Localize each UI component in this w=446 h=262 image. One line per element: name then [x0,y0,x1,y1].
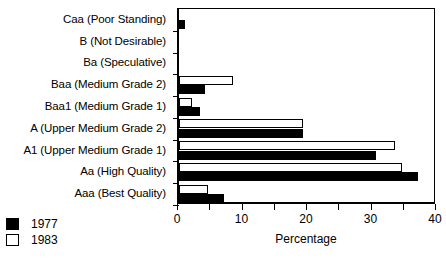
x-axis-tick [177,204,178,210]
legend-item-1977: 1977 [6,216,126,232]
bar-1983-7 [179,163,402,172]
x-axis-tick [371,204,372,210]
bar-1983-6 [179,141,395,150]
x-axis-tick [338,204,339,210]
bar-1977-0 [179,20,185,29]
x-axis-ticks [177,204,435,211]
category-label: A (Upper Medium Grade 2) [0,122,166,134]
bar-1977-3 [179,85,205,94]
category-label: B (Not Desirable) [0,35,166,47]
plot-area [177,8,435,204]
bar-1977-4 [179,107,200,116]
bar-1977-7 [179,172,418,181]
x-axis-tick [435,204,436,210]
bar-1977-5 [179,129,303,138]
legend-swatch-icon [6,234,19,246]
x-axis-tick-label: 20 [299,212,312,226]
category-label: Aa (High Quality) [0,165,166,177]
category-label: Baa1 (Medium Grade 1) [0,100,166,112]
category-label: Ba (Speculative) [0,56,166,68]
legend-swatch-icon [6,218,19,230]
x-axis-tick [209,204,210,210]
x-axis-tick-label: 40 [428,212,441,226]
bar-1983-8 [179,185,208,194]
bar-1983-4 [179,98,192,107]
x-axis-title: Percentage [177,232,435,246]
x-axis-tick [242,204,243,210]
x-axis-tick [306,204,307,210]
y-axis-tick [173,53,179,54]
category-label: Baa (Medium Grade 2) [0,78,166,90]
legend-label: 1983 [31,234,58,247]
bar-1977-8 [179,194,224,203]
x-axis-tick-label: 0 [174,212,181,226]
x-axis-tick-label: 30 [364,212,377,226]
category-label: Caa (Poor Standing) [0,13,166,25]
bond-rating-bar-chart: Caa (Poor Standing)B (Not Desirable)Ba (… [0,0,446,262]
legend-item-1983: 1983 [6,232,126,248]
legend-label: 1977 [31,218,58,231]
y-axis-tick [173,31,179,32]
bar-1983-5 [179,119,303,128]
category-label: A1 (Upper Medium Grade 1) [0,144,166,156]
category-label: Aaa (Best Quality) [0,187,166,199]
bar-1977-6 [179,151,376,160]
x-axis-tick-label: 10 [235,212,248,226]
category-axis-labels: Caa (Poor Standing)B (Not Desirable)Ba (… [0,8,172,204]
x-axis-tick [274,204,275,210]
x-axis-tick [403,204,404,210]
chart-legend: 19771983 [6,216,126,248]
bar-1983-3 [179,76,233,85]
